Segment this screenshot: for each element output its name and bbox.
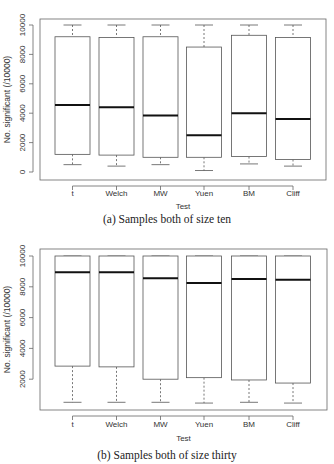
x-tick-label: Welch — [105, 420, 127, 429]
box-mw — [143, 256, 178, 402]
box-yuen — [187, 25, 222, 171]
y-tick-label: 2000 — [18, 133, 27, 151]
box-iqr — [232, 35, 267, 156]
y-tick-label: 8000 — [18, 277, 27, 295]
y-tick-label: 0 — [18, 169, 27, 174]
box-bm — [232, 25, 267, 164]
box-welch — [99, 256, 134, 402]
x-axis-label: Test — [176, 434, 191, 443]
x-tick-label: Yuen — [195, 189, 213, 198]
box-iqr — [276, 37, 311, 159]
y-tick-label: 4000 — [18, 339, 27, 357]
x-tick-label: MW — [153, 420, 168, 429]
box-t — [55, 256, 90, 402]
x-tick-label: t — [71, 420, 74, 429]
box-mw — [143, 25, 178, 165]
box-bm — [232, 256, 267, 402]
y-tick-label: 10000 — [18, 13, 27, 36]
y-tick-label: 6000 — [18, 74, 27, 92]
box-iqr — [187, 47, 222, 157]
x-tick-label: Cliff — [286, 189, 300, 198]
boxplot-chart-a: 0200040006000800010000No. significant (/… — [2, 13, 326, 211]
box-iqr — [99, 37, 134, 155]
box-yuen — [187, 256, 222, 403]
x-tick-label: BM — [243, 420, 255, 429]
x-tick-label: MW — [153, 189, 168, 198]
box-welch — [99, 25, 134, 166]
x-tick-label: Yuen — [195, 420, 213, 429]
box-iqr — [143, 37, 178, 158]
y-tick-label: 4000 — [18, 104, 27, 122]
x-tick-label: Cliff — [286, 420, 300, 429]
figure: 0200040006000800010000No. significant (/… — [0, 0, 334, 464]
caption-a: (a) Samples both of size ten — [0, 213, 334, 225]
y-tick-label: 10000 — [18, 244, 27, 267]
box-iqr — [187, 256, 222, 378]
box-iqr — [143, 256, 178, 379]
caption-b: (b) Samples both of size thirty — [0, 449, 334, 461]
box-iqr — [276, 256, 311, 383]
x-tick-label: t — [71, 189, 74, 198]
y-axis-label: No. significant (/10000) — [2, 286, 12, 374]
x-axis-label: Test — [176, 202, 191, 211]
y-tick-label: 6000 — [18, 308, 27, 326]
y-tick-label: 8000 — [18, 45, 27, 63]
box-iqr — [232, 256, 267, 380]
box-cliff — [276, 25, 311, 166]
y-axis-label: No. significant (/10000) — [2, 56, 12, 144]
x-tick-label: BM — [243, 189, 255, 198]
box-t — [55, 25, 90, 165]
y-tick-label: 2000 — [18, 370, 27, 388]
box-iqr — [55, 37, 90, 155]
boxplot-chart-b: 200040006000800010000No. significant (/1… — [2, 244, 327, 443]
box-cliff — [276, 256, 311, 403]
x-tick-label: Welch — [105, 189, 127, 198]
